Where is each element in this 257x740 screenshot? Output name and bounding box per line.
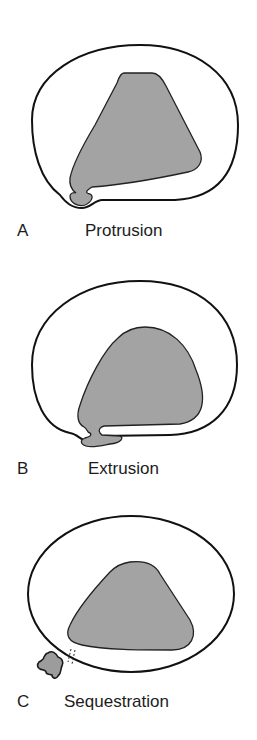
panel-label-row: B Extrusion xyxy=(0,458,257,480)
protrusion-disc-illustration xyxy=(0,0,257,250)
panel-letter: C xyxy=(17,691,29,713)
panel-extrusion: B Extrusion xyxy=(0,250,257,490)
panel-title: Sequestration xyxy=(64,691,169,713)
panel-sequestration: C Sequestration xyxy=(0,490,257,740)
panel-protrusion: A Protrusion xyxy=(0,0,257,250)
panel-title: Protrusion xyxy=(85,220,162,242)
extrusion-disc-illustration xyxy=(0,250,257,490)
sequestered-fragment xyxy=(38,652,63,678)
panel-label-row: A Protrusion xyxy=(0,220,257,242)
panel-letter: B xyxy=(17,458,28,480)
panel-letter: A xyxy=(17,220,28,242)
panel-label-row: C Sequestration xyxy=(0,691,257,713)
panel-title: Extrusion xyxy=(88,458,159,480)
